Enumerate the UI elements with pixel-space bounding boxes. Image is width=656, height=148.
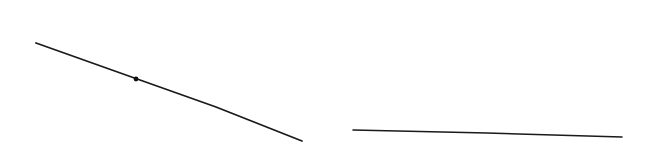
figure-background [0, 0, 656, 148]
drawing-canvas [0, 0, 656, 148]
point-marker-dot [134, 77, 139, 82]
line-figure [0, 0, 656, 148]
marker-group [134, 77, 139, 82]
